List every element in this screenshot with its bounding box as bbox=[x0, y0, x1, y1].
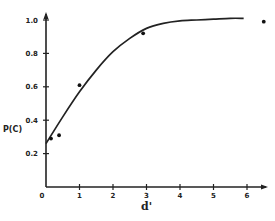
y-axis-label: P(C) bbox=[3, 125, 22, 134]
axes bbox=[44, 12, 269, 190]
x-tick-label: 0 bbox=[40, 192, 45, 200]
y-tick-label: 0.4 bbox=[26, 117, 39, 125]
data-point bbox=[78, 83, 82, 87]
y-tick-label: 0.2 bbox=[26, 150, 39, 158]
y-tick-label: 1.0 bbox=[26, 17, 39, 25]
data-point bbox=[262, 20, 266, 24]
data-point bbox=[57, 133, 61, 137]
data-point bbox=[141, 31, 145, 35]
fitted-curve-line bbox=[46, 18, 244, 143]
data-points bbox=[49, 20, 266, 141]
ticks: 01234560.20.40.60.81.0 bbox=[26, 17, 250, 201]
fitted-curve bbox=[46, 18, 244, 143]
x-axis-arrow-icon bbox=[261, 185, 268, 190]
x-tick-label: 3 bbox=[144, 192, 149, 200]
y-tick-label: 0.6 bbox=[26, 83, 39, 91]
x-tick-label: 6 bbox=[245, 192, 250, 200]
x-tick-label: 2 bbox=[111, 192, 116, 200]
y-tick-label: 0.8 bbox=[26, 50, 39, 58]
y-axis-arrow-icon bbox=[44, 12, 49, 19]
x-tick-label: 5 bbox=[211, 192, 216, 200]
x-tick-label: 1 bbox=[77, 192, 82, 200]
chart: 01234560.20.40.60.81.0 P(C) d' bbox=[0, 0, 275, 221]
data-point bbox=[49, 137, 53, 141]
x-tick-label: 4 bbox=[178, 192, 183, 200]
x-axis-label: d' bbox=[141, 200, 152, 213]
